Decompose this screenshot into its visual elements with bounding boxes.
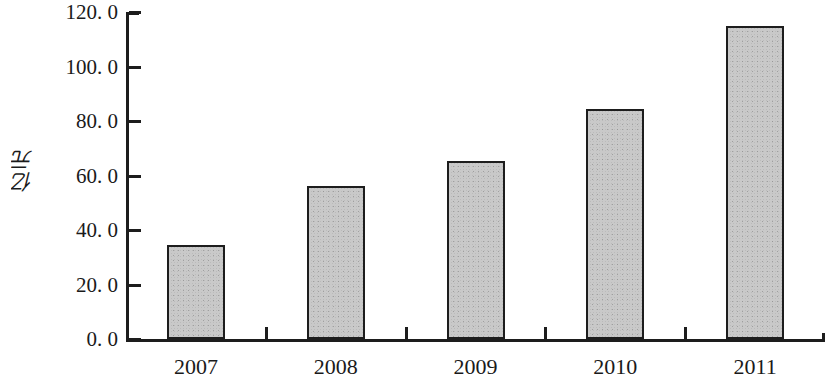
plot-area [126,12,825,342]
x-axis-tick-label: 2009 [454,352,498,382]
y-axis-tick-label: 0. 0 [20,329,118,350]
y-axis-tick-label: 100. 0 [20,56,118,77]
bar [586,109,644,339]
bars-group [126,12,825,342]
bar [167,245,225,339]
y-axis-tick-label: 20. 0 [20,274,118,295]
bar [726,26,784,339]
y-axis-tick-labels: 0. 020. 040. 060. 080. 0100. 0120. 0 [20,0,118,389]
y-axis-tick-label: 40. 0 [20,220,118,241]
x-axis-tick-labels: 20072008200920102011 [126,352,825,386]
x-axis-tick-label: 2007 [174,352,218,382]
y-axis-tick-label: 120. 0 [20,2,118,23]
x-axis-tick-label: 2010 [593,352,637,382]
bar-chart: 亿元 0. 020. 040. 060. 080. 0100. 0120. 0 … [0,0,830,389]
bar [307,186,365,339]
bar [447,161,505,339]
x-axis-tick-label: 2008 [314,352,358,382]
y-axis-tick-label: 60. 0 [20,165,118,186]
x-axis-tick-label: 2011 [734,352,777,382]
y-axis-tick-label: 80. 0 [20,111,118,132]
